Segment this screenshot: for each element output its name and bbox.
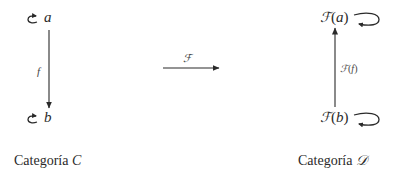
- morphism-f-label: f: [37, 66, 40, 77]
- functor-symbol: ℱ: [340, 63, 348, 74]
- caption-prefix: Categoría: [298, 153, 352, 168]
- caption-prefix: Categoría: [14, 153, 68, 168]
- object-arg: a: [336, 9, 344, 25]
- identity-loop-Fa-icon: [354, 13, 379, 25]
- identity-loop-b-icon: [28, 116, 37, 123]
- functor-symbol: ℱ: [320, 109, 331, 125]
- caption-category-D: Categoría 𝒟: [298, 154, 367, 168]
- object-Fb-label: ℱ(b): [320, 110, 349, 125]
- morphism-Ff-label: ℱ(f): [340, 64, 357, 74]
- object-Fa-label: ℱ(a): [320, 10, 349, 25]
- object-b-label: b: [44, 110, 52, 125]
- caption-symbol: C: [72, 153, 81, 168]
- object-arg: b: [336, 109, 344, 125]
- identity-loop-a-icon: [28, 16, 37, 23]
- identity-loop-Fb-icon: [354, 113, 379, 125]
- object-a-label: a: [44, 10, 52, 25]
- functor-label: ℱ: [183, 53, 192, 64]
- functor-symbol: ℱ: [320, 9, 331, 25]
- paren-close: ): [344, 9, 349, 25]
- caption-symbol: 𝒟: [356, 153, 367, 168]
- paren-close: ): [344, 109, 349, 125]
- paren-close: ): [354, 63, 357, 74]
- caption-category-C: Categoría C: [14, 154, 81, 168]
